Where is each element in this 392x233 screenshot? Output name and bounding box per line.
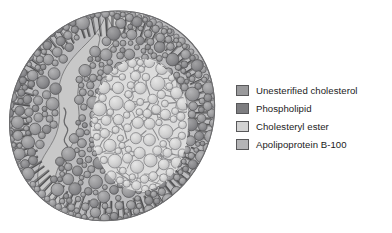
ldl-particle-figure: Unesterified cholesterol Phospholipid Ch… <box>0 0 392 233</box>
legend-swatch-phospholipid <box>236 103 249 114</box>
legend-item-apolipoprotein-b-100: Apolipoprotein B-100 <box>236 136 388 153</box>
legend-item-phospholipid: Phospholipid <box>236 100 388 117</box>
legend-label-cholesteryl-ester: Cholesteryl ester <box>256 121 329 132</box>
legend-swatch-unesterified-cholesterol <box>236 85 249 96</box>
legend-item-cholesteryl-ester: Cholesteryl ester <box>236 118 388 135</box>
legend-swatch-apolipoprotein-b-100 <box>236 139 249 150</box>
legend-item-unesterified-cholesterol: Unesterified cholesterol <box>236 82 388 99</box>
component-legend: Unesterified cholesterol Phospholipid Ch… <box>236 82 388 154</box>
legend-swatch-cholesteryl-ester <box>236 121 249 132</box>
legend-label-unesterified-cholesterol: Unesterified cholesterol <box>256 85 357 96</box>
legend-label-apolipoprotein-b-100: Apolipoprotein B-100 <box>256 139 347 150</box>
legend-label-phospholipid: Phospholipid <box>256 103 312 114</box>
